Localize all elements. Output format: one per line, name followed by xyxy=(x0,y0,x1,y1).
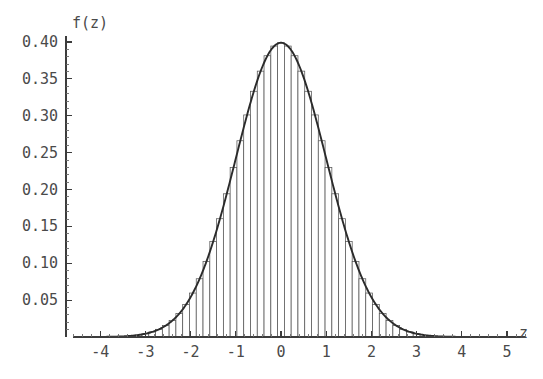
histogram-bar xyxy=(298,71,305,337)
histogram-bar xyxy=(223,194,230,337)
histogram-bar xyxy=(250,91,257,337)
histogram-bar xyxy=(196,279,203,337)
y-axis-tick-label: 0.05 xyxy=(22,291,58,309)
histogram-bar xyxy=(366,293,373,337)
x-axis-tick-label: 4 xyxy=(457,343,466,361)
y-axis-tick-label: 0.30 xyxy=(22,107,58,125)
histogram-bar xyxy=(264,56,271,337)
x-axis-tick-label: -4 xyxy=(91,343,109,361)
y-axis-tick-label: 0.15 xyxy=(22,217,58,235)
histogram-bars xyxy=(135,43,420,337)
histogram-bar xyxy=(230,167,237,337)
histogram-bar xyxy=(291,56,298,337)
histogram-bar xyxy=(312,115,319,337)
histogram-bar xyxy=(189,293,196,337)
histogram-bar xyxy=(203,262,210,337)
y-axis-tick-label: 0.35 xyxy=(22,70,58,88)
x-axis-tick-label: -3 xyxy=(136,343,154,361)
histogram-bar xyxy=(278,43,285,337)
histogram-bar xyxy=(210,241,217,337)
x-axis-title: z xyxy=(519,324,528,342)
histogram-bar xyxy=(318,141,325,337)
x-axis-tick-label: 0 xyxy=(276,343,285,361)
histogram-bar xyxy=(244,115,251,337)
histogram-bar xyxy=(359,279,366,337)
x-axis-tick-label: -2 xyxy=(182,343,200,361)
x-axis-tick-label: 1 xyxy=(322,343,331,361)
x-axis-tick-label: 3 xyxy=(412,343,421,361)
y-axis-tick-label: 0.25 xyxy=(22,144,58,162)
cut-off-caption xyxy=(0,372,543,379)
histogram-bar xyxy=(284,46,291,337)
histogram-bar xyxy=(217,219,224,337)
histogram-bar xyxy=(339,219,346,337)
normal-distribution-chart: -4-3-2-10123450.050.100.150.200.250.300.… xyxy=(0,0,543,379)
histogram-bar xyxy=(305,91,312,337)
histogram-bar xyxy=(257,71,264,337)
histogram-bar xyxy=(345,241,352,337)
y-axis-tick-label: 0.10 xyxy=(22,254,58,272)
y-axis-tick-label: 0.40 xyxy=(22,33,58,51)
figure-container: -4-3-2-10123450.050.100.150.200.250.300.… xyxy=(0,0,543,379)
histogram-bar xyxy=(332,194,339,337)
x-axis-tick-label: 5 xyxy=(502,343,511,361)
y-axis-title: f(z) xyxy=(72,14,108,32)
y-axis-tick-label: 0.20 xyxy=(22,181,58,199)
histogram-bar xyxy=(237,141,244,337)
histogram-bar xyxy=(271,46,278,337)
x-axis-tick-label: -1 xyxy=(227,343,245,361)
histogram-bar xyxy=(325,167,332,337)
histogram-bar xyxy=(352,262,359,337)
x-axis-tick-label: 2 xyxy=(367,343,376,361)
